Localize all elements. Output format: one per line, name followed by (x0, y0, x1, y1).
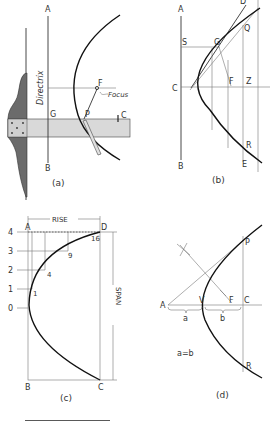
label-a-C: C (121, 111, 127, 120)
label-d-a: a (183, 314, 188, 323)
label-b-R: R (246, 141, 252, 150)
label-d-F: F (229, 296, 234, 305)
label-b-Z: Z (246, 77, 252, 86)
label-d-b: b (220, 314, 225, 323)
label-a-B: B (45, 164, 51, 173)
label-b-F: F (229, 77, 234, 86)
label-c-B: B (25, 383, 31, 392)
label-a-P: P (85, 110, 90, 119)
point-1: 1 (33, 290, 37, 298)
label-b-E: E (242, 160, 247, 169)
panel-c: RISE SPAN A D B C 4 3 2 1 0 16 9 4 (8, 216, 122, 421)
tick-3: 3 (8, 247, 13, 256)
label-focus: Focus (108, 91, 129, 99)
label-c-A: A (25, 223, 31, 232)
label-c-D: D (101, 223, 107, 232)
label-directrix: Directrix (36, 70, 45, 105)
label-d-A: A (160, 301, 166, 310)
point-4: 4 (47, 271, 52, 279)
caption-c: (c) (60, 393, 72, 403)
point-16: 16 (91, 235, 100, 243)
label-a-A: A (45, 5, 51, 14)
label-span: SPAN (114, 287, 122, 305)
point-9: 9 (68, 252, 72, 260)
label-b-D: D (240, 0, 246, 6)
label-b-Q: Q (244, 24, 250, 33)
label-c-C: C (98, 383, 104, 392)
label-d-C: C (244, 296, 250, 305)
caption-a: (a) (52, 178, 65, 188)
panel-a: A B Directrix F Focus C G P (a) (8, 5, 130, 200)
label-a-G: G (50, 110, 56, 119)
label-b-B: B (178, 162, 184, 171)
tick-1: 1 (8, 285, 13, 294)
caption-b: (b) (212, 175, 225, 185)
label-a-F: F (98, 79, 103, 88)
panel-b: A B C S G F Z Q D R E (b) (172, 0, 270, 185)
label-d-P: P (245, 238, 250, 247)
tick-0: 0 (8, 304, 13, 313)
label-b-A: A (178, 5, 184, 14)
label-rise: RISE (52, 216, 68, 224)
panel-d: A V F C P R a b a=b (d) (160, 225, 262, 400)
tick-2: 2 (8, 266, 13, 275)
parabola-c (29, 232, 100, 380)
label-b-C: C (172, 84, 178, 93)
parabola-construction-figure: A B Directrix F Focus C G P (a) A B C S … (0, 0, 270, 421)
label-equation: a=b (177, 349, 194, 358)
caption-d: (d) (216, 390, 229, 400)
parabola-a (74, 15, 120, 160)
label-d-R: R (246, 362, 252, 371)
tick-4: 4 (8, 228, 13, 237)
label-b-S: S (182, 38, 187, 47)
label-d-V: V (199, 296, 205, 305)
